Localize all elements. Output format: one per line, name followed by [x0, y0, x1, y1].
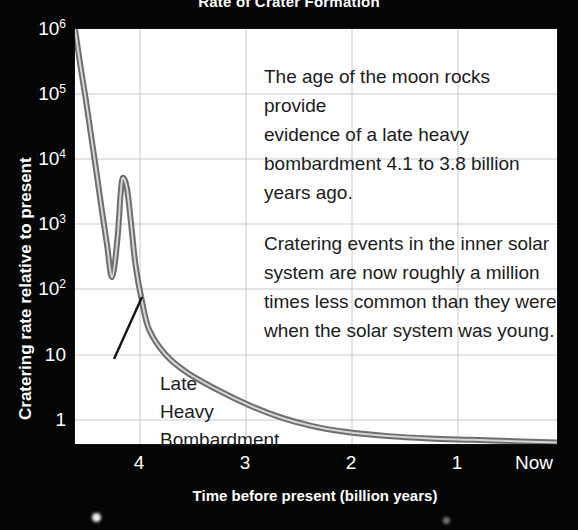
x-tick-label: 4 [99, 452, 179, 474]
y-tick-label: 103 [8, 213, 66, 235]
y-tick-label: 106 [8, 18, 66, 40]
annotation-moon-rocks: The age of the moon rocks provide eviden… [264, 62, 557, 207]
callout-leader-line [114, 297, 142, 359]
y-tick-label: 104 [8, 148, 66, 170]
star-dot [92, 513, 101, 522]
x-tick-label: 3 [205, 452, 285, 474]
x-tick-label: Now [494, 452, 574, 474]
y-tick-label: 10 [8, 344, 66, 366]
y-tick-label: 1 [8, 409, 66, 431]
x-tick-label: 2 [311, 452, 391, 474]
y-tick-label: 105 [8, 83, 66, 105]
y-tick-label: 102 [8, 278, 66, 300]
plot-area: The age of the moon rocks provide eviden… [74, 28, 558, 445]
figure-root: Rate of Crater Formation Cratering rate … [0, 0, 578, 530]
star-dot [443, 517, 450, 524]
chart-title: Rate of Crater Formation [0, 0, 578, 10]
annotation-cratering-rate: Cratering events in the inner solar syst… [264, 229, 557, 345]
annotation-late-heavy-bombardment: Late Heavy Bombardment [160, 370, 279, 454]
x-axis-title: Time before present (billion years) [74, 487, 556, 504]
x-tick-label: 1 [417, 452, 497, 474]
